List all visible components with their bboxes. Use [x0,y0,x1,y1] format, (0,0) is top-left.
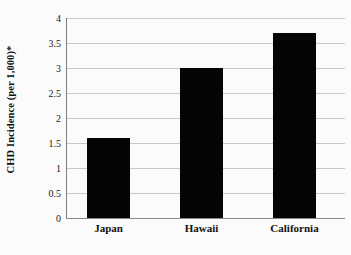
x-axis-category-labels: JapanHawaiiCalifornia [66,222,345,242]
plot-area [66,18,345,218]
x-axis-label-hawaii: Hawaii [185,222,219,234]
y-axis-tick-label: 2.5 [24,88,66,99]
y-axis-tick-label: 1.5 [24,138,66,149]
x-axis-line [66,218,345,219]
y-axis-tick-label: 3 [24,63,66,74]
gridline [66,18,345,19]
bar-chart: CHD Incidence (per 1,000)* 43.532.521.51… [0,0,351,255]
y-axis-line [66,18,67,219]
x-axis-label-california: California [270,222,318,234]
y-axis-title-text: CHD Incidence (per 1,000)* [6,45,17,173]
y-axis-tick-labels: 43.532.521.510.50 [24,18,66,218]
bar-japan [87,138,130,218]
bar-hawaii [180,68,223,218]
y-axis-tick-label: 3.5 [24,38,66,49]
y-axis-title: CHD Incidence (per 1,000)* [0,0,22,218]
y-axis-tick-label: 4 [24,13,66,24]
bar-california [273,33,316,218]
y-axis-tick-label: 0 [24,213,66,224]
y-axis-tick-label: 0.5 [24,188,66,199]
y-axis-tick-label: 2 [24,113,66,124]
x-axis-label-japan: Japan [94,222,123,234]
y-axis-tick-label: 1 [24,163,66,174]
